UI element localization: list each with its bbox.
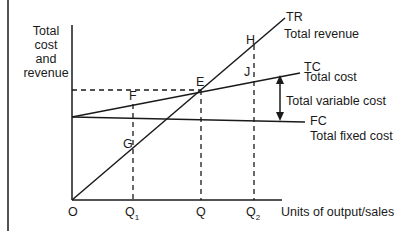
arrow-down-head-icon bbox=[276, 112, 284, 121]
fc-code-label: FC bbox=[310, 114, 327, 128]
y-label-line: and bbox=[22, 52, 70, 66]
y-label-line: Total bbox=[22, 24, 70, 38]
x-axis-label: Units of output/sales bbox=[281, 205, 394, 219]
q-label: Q bbox=[196, 205, 206, 219]
point-f-label: F bbox=[129, 89, 137, 103]
point-j-label: J bbox=[244, 65, 250, 79]
q2-label: Q2 bbox=[246, 205, 260, 225]
q1-label: Q1 bbox=[125, 205, 139, 225]
y-label-line: cost bbox=[22, 38, 70, 52]
point-g-label: G bbox=[123, 137, 133, 151]
tr-code-label: TR bbox=[286, 10, 303, 24]
tc-line bbox=[72, 73, 300, 117]
y-axis-label: Total cost and revenue bbox=[22, 24, 70, 80]
tc-name-label: Total cost bbox=[304, 70, 357, 84]
origin-label: O bbox=[68, 205, 78, 219]
y-label-line: revenue bbox=[22, 66, 70, 80]
tr-name-label: Total revenue bbox=[284, 27, 359, 41]
point-h-label: H bbox=[246, 33, 255, 47]
fc-line bbox=[72, 117, 305, 122]
fc-name-label: Total fixed cost bbox=[310, 129, 393, 143]
point-e-label: E bbox=[196, 75, 204, 89]
variable-cost-label: Total variable cost bbox=[286, 94, 386, 108]
